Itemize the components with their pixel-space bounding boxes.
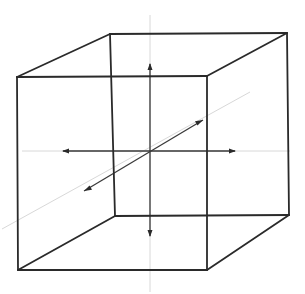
depth-axis-extension: [2, 92, 250, 229]
front-left-edge: [17, 77, 18, 270]
depth-edge-top-right: [207, 33, 287, 76]
axes: [63, 64, 235, 236]
back-bottom-edge: [115, 215, 289, 216]
arrow-right-icon: [229, 149, 236, 154]
front-top-edge: [17, 76, 207, 77]
back-right-edge: [287, 33, 289, 215]
cube-back-face: [110, 33, 289, 216]
depth-edge-bottom-right: [207, 215, 289, 270]
arrow-left-icon: [62, 149, 69, 154]
arrow-down-icon: [148, 230, 153, 237]
cube-axes-diagram: [0, 0, 305, 294]
arrowheads: [62, 63, 236, 237]
depth-edge-top-left: [17, 34, 110, 77]
depth-edge-bottom-left: [18, 216, 115, 270]
back-left-edge: [110, 34, 115, 216]
depth-axis: [84, 120, 203, 191]
arrow-up-icon: [148, 63, 153, 70]
back-top-edge: [110, 33, 287, 34]
